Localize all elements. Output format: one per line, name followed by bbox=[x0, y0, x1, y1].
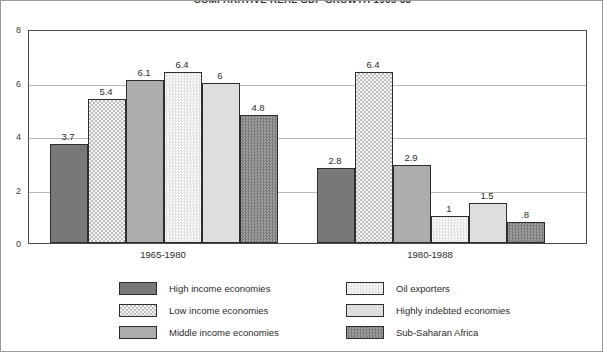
legend-item-label: Oil exporters bbox=[396, 283, 450, 294]
legend-swatch-icon bbox=[346, 304, 384, 317]
x-axis-group-label: 1980-1988 bbox=[407, 249, 452, 260]
bar bbox=[164, 72, 202, 243]
bar bbox=[126, 80, 164, 243]
legend-swatch-icon bbox=[346, 326, 384, 339]
legend-item: Middle income economies bbox=[119, 321, 329, 343]
bar-value-label: 6.4 bbox=[175, 60, 188, 70]
y-axis-tick-label: 8 bbox=[16, 26, 21, 35]
bar bbox=[355, 72, 393, 243]
bar bbox=[88, 99, 126, 243]
bar-value-label: 1.5 bbox=[480, 191, 493, 201]
chart-title: COMPARATIVE REAL GDP GROWTH 1965-88 bbox=[1, 0, 603, 5]
legend-swatch-icon bbox=[119, 304, 157, 317]
legend-item: High income economies bbox=[119, 277, 329, 299]
bar bbox=[202, 83, 240, 244]
bar-value-label: 6 bbox=[217, 71, 222, 81]
y-axis: 02468 bbox=[1, 30, 25, 244]
legend-item: Low income economies bbox=[119, 299, 329, 321]
y-axis-tick-label: 2 bbox=[16, 186, 21, 195]
bar bbox=[469, 203, 507, 243]
y-axis-tick-label: 6 bbox=[16, 79, 21, 88]
bar-value-label: 2.8 bbox=[328, 156, 341, 166]
bar-value-label: 1 bbox=[446, 204, 451, 214]
gridline bbox=[29, 85, 586, 86]
bar-value-label: 2.9 bbox=[404, 153, 417, 163]
legend-item-label: Middle income economies bbox=[169, 327, 279, 338]
bar bbox=[50, 144, 88, 243]
legend-column-left: High income economiesLow income economie… bbox=[119, 277, 329, 343]
legend-item-label: High income economies bbox=[169, 283, 270, 294]
bar bbox=[431, 216, 469, 243]
legend-item: Highly indebted economies bbox=[346, 299, 556, 321]
legend-item-label: Sub-Saharan Africa bbox=[396, 327, 478, 338]
legend-item-label: Highly indebted economies bbox=[396, 305, 510, 316]
legend-column-right: Oil exportersHighly indebted economiesSu… bbox=[346, 277, 556, 343]
bar-value-label: 6.1 bbox=[137, 68, 150, 78]
bar-value-label: 4.8 bbox=[251, 103, 264, 113]
chart-legend: High income economiesLow income economie… bbox=[119, 277, 539, 343]
legend-item: Oil exporters bbox=[346, 277, 556, 299]
bar bbox=[240, 115, 278, 243]
legend-item-label: Low income economies bbox=[169, 305, 268, 316]
chart-figure: COMPARATIVE REAL GDP GROWTH 1965-88 0246… bbox=[0, 0, 603, 352]
x-axis-group-label: 1965-1980 bbox=[140, 249, 185, 260]
plot-area bbox=[28, 30, 587, 244]
legend-swatch-icon bbox=[119, 282, 157, 295]
legend-item: Sub-Saharan Africa bbox=[346, 321, 556, 343]
bar bbox=[317, 168, 355, 243]
bar-value-label: 5.4 bbox=[99, 87, 112, 97]
bar-value-label: 6.4 bbox=[366, 60, 379, 70]
legend-swatch-icon bbox=[346, 282, 384, 295]
y-axis-tick-label: 0 bbox=[16, 240, 21, 249]
bar bbox=[393, 165, 431, 243]
y-axis-tick-label: 4 bbox=[16, 133, 21, 142]
bar bbox=[507, 222, 545, 243]
bar-value-label: 3.7 bbox=[61, 132, 74, 142]
bar-value-label: .8 bbox=[521, 210, 529, 220]
legend-swatch-icon bbox=[119, 326, 157, 339]
